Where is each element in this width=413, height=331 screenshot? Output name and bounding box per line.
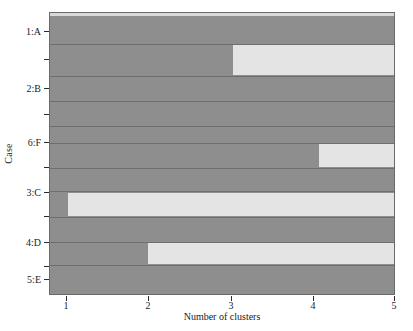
icicle-plot-figure: Case 1:A 2:B 6:F 3:C 4:D 5:	[0, 0, 413, 331]
y-tick-label-case-1a: 1:A	[0, 26, 41, 37]
row-divider	[50, 217, 394, 218]
plot-area	[49, 12, 395, 295]
y-tick-label-case-3c: 3:C	[0, 187, 41, 198]
y-tick-mark	[44, 167, 49, 168]
y-tick-mark	[44, 266, 49, 267]
separation-band-d-e	[148, 243, 395, 264]
y-tick-label-case-4d: 4:D	[0, 237, 41, 248]
row-divider	[50, 76, 394, 77]
row-divider	[50, 265, 394, 266]
separation-band-c-d	[68, 193, 395, 216]
y-tick-label-case-6f: 6:F	[0, 137, 41, 148]
row-divider	[50, 191, 394, 192]
separation-band-f-c	[319, 144, 395, 167]
row-divider	[50, 101, 394, 102]
y-tick-mark	[44, 216, 49, 217]
y-tick-mark	[44, 88, 49, 89]
y-tick-label-case-5e: 5:E	[0, 274, 41, 285]
y-tick-mark	[44, 242, 49, 243]
row-divider	[50, 168, 394, 169]
x-tick-label-3: 3	[229, 300, 234, 311]
y-tick-mark	[44, 279, 49, 280]
y-axis-title: Case	[3, 124, 14, 184]
y-tick-mark	[44, 142, 49, 143]
y-tick-label-case-2b: 2:B	[0, 83, 41, 94]
x-tick-label-2: 2	[146, 300, 151, 311]
x-tick-label-4: 4	[311, 300, 316, 311]
y-tick-mark	[44, 59, 49, 60]
y-tick-mark	[44, 114, 49, 115]
separation-band-a-b	[233, 45, 395, 75]
x-tick-label-1: 1	[64, 300, 69, 311]
plot-top-highlight	[50, 13, 394, 16]
x-axis-title: Number of clusters	[49, 311, 395, 322]
row-divider	[50, 126, 394, 127]
y-tick-mark	[44, 31, 49, 32]
y-tick-mark	[44, 192, 49, 193]
x-tick-label-5: 5	[392, 300, 397, 311]
